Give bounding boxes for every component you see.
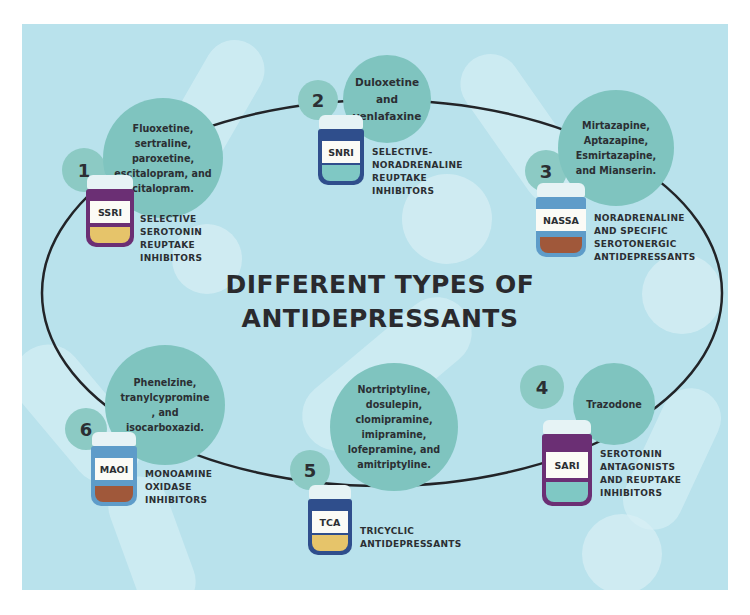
step-number-5: 5 — [290, 450, 330, 490]
type-description-ssri: SELECTIVESEROTONINREUPTAKEINHIBITORS — [140, 213, 202, 265]
page-title: DIFFERENT TYPES OF ANTIDEPRESSANTS — [200, 268, 560, 336]
step-number-2: 2 — [298, 80, 338, 120]
type-description-snri: SELECTIVE-NORADRENALINEREUPTAKEINHIBITOR… — [372, 146, 463, 198]
bottle-maoi: MAOI — [91, 432, 137, 506]
bottle-sari: SARI — [542, 420, 592, 506]
type-description-tca: TRICYCLICANTIDEPRESSANTS — [360, 525, 461, 551]
bottle-snri: SNRI — [318, 115, 364, 185]
step-number-4: 4 — [520, 365, 564, 409]
bottle-tca: TCA — [308, 485, 352, 555]
bottle-nassa: NASSA — [536, 183, 586, 257]
type-description-sari: SEROTONINANTAGONISTSAND REUPTAKEINHIBITO… — [600, 448, 681, 500]
type-description-nassa: NORADRENALINEAND SPECIFICSEROTONERGICANT… — [594, 212, 695, 264]
bottle-ssri: SSRI — [86, 175, 134, 247]
drug-bubble-tca: Nortriptyline,dosulepin,clomipramine,imi… — [330, 363, 458, 491]
type-description-maoi: MONOAMINEOXIDASEINHIBITORS — [145, 468, 212, 507]
